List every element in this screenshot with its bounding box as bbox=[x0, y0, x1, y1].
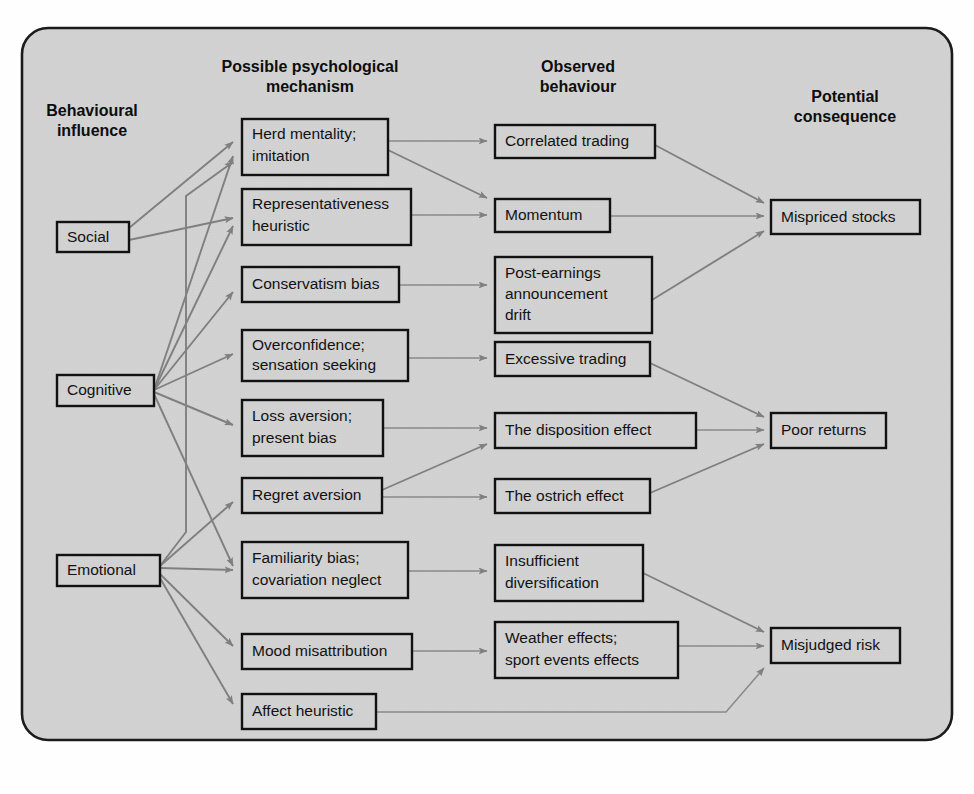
node-momentum-line1: Momentum bbox=[505, 206, 583, 223]
node-ostrich-line1: The ostrich effect bbox=[505, 487, 624, 504]
node-insufficient-diversification[interactable]: Insufficient diversification bbox=[495, 545, 643, 601]
node-regret-aversion-line1: Regret aversion bbox=[252, 486, 361, 503]
column-header-line2: influence bbox=[57, 122, 127, 139]
node-insufficient-line1: Insufficient bbox=[505, 552, 580, 569]
node-herd-mentality-line1: Herd mentality; bbox=[252, 125, 356, 142]
node-misjudged-risk[interactable]: Misjudged risk bbox=[771, 628, 900, 663]
node-regret-aversion[interactable]: Regret aversion bbox=[242, 478, 382, 513]
node-the-disposition-effect[interactable]: The disposition effect bbox=[495, 413, 696, 448]
node-insufficient-line2: diversification bbox=[505, 574, 599, 591]
node-social[interactable]: Social bbox=[57, 222, 129, 252]
column-header-line1: Behavioural bbox=[46, 102, 138, 119]
node-social-label: Social bbox=[67, 228, 109, 245]
node-representativeness-heuristic[interactable]: Representativeness heuristic bbox=[242, 189, 411, 245]
node-post-earnings-announcement-drift[interactable]: Post-earnings announcement drift bbox=[495, 257, 652, 333]
node-poor-returns[interactable]: Poor returns bbox=[771, 413, 886, 448]
node-emotional-label: Emotional bbox=[67, 561, 136, 578]
node-cognitive-label: Cognitive bbox=[67, 381, 132, 398]
node-mood-line1: Mood misattribution bbox=[252, 642, 387, 659]
node-affect-heuristic[interactable]: Affect heuristic bbox=[242, 694, 376, 729]
node-excessive-line1: Excessive trading bbox=[505, 350, 626, 367]
node-herd-mentality[interactable]: Herd mentality; imitation bbox=[242, 119, 388, 175]
column-header-line1: Possible psychological bbox=[222, 58, 399, 75]
column-header-line2: mechanism bbox=[266, 78, 354, 95]
node-loss-aversion-line2: present bias bbox=[252, 429, 337, 446]
node-overconfidence-line2: sensation seeking bbox=[252, 356, 376, 373]
node-mispriced-label: Mispriced stocks bbox=[781, 208, 896, 225]
node-representativeness-line1: Representativeness bbox=[252, 195, 389, 212]
node-loss-aversion[interactable]: Loss aversion; present bias bbox=[242, 400, 383, 456]
node-disposition-line1: The disposition effect bbox=[505, 421, 652, 438]
node-loss-aversion-line1: Loss aversion; bbox=[252, 407, 352, 424]
node-weather-line1: Weather effects; bbox=[505, 629, 617, 646]
node-cognitive[interactable]: Cognitive bbox=[57, 375, 154, 406]
node-familiarity-line1: Familiarity bias; bbox=[252, 549, 360, 566]
behavioural-finance-flow-diagram: Behavioural influence Possible psycholog… bbox=[0, 0, 974, 794]
node-pead-line1: Post-earnings bbox=[505, 264, 601, 281]
node-overconfidence-line1: Overconfidence; bbox=[252, 336, 365, 353]
column-header-line2: consequence bbox=[794, 108, 896, 125]
node-correlated-trading[interactable]: Correlated trading bbox=[495, 125, 655, 158]
node-conservatism-bias[interactable]: Conservatism bias bbox=[242, 267, 399, 302]
node-affect-line1: Affect heuristic bbox=[252, 702, 354, 719]
node-herd-mentality-line2: imitation bbox=[252, 147, 310, 164]
node-familiarity-line2: covariation neglect bbox=[252, 571, 382, 588]
node-weather-line2: sport events effects bbox=[505, 651, 639, 668]
column-header-line1: Observed bbox=[541, 58, 615, 75]
column-header-line2: behaviour bbox=[540, 78, 616, 95]
node-momentum[interactable]: Momentum bbox=[495, 199, 610, 232]
node-overconfidence[interactable]: Overconfidence; sensation seeking bbox=[242, 330, 408, 381]
node-the-ostrich-effect[interactable]: The ostrich effect bbox=[495, 479, 650, 513]
node-mood-misattribution[interactable]: Mood misattribution bbox=[242, 634, 412, 669]
column-header-line1: Potential bbox=[811, 88, 879, 105]
node-representativeness-line2: heuristic bbox=[252, 217, 310, 234]
figure-canvas: Behavioural influence Possible psycholog… bbox=[0, 0, 974, 794]
node-poor-returns-label: Poor returns bbox=[781, 421, 867, 438]
node-conservatism-line1: Conservatism bias bbox=[252, 275, 380, 292]
node-weather-sport-effects[interactable]: Weather effects; sport events effects bbox=[495, 622, 678, 678]
node-misjudged-label: Misjudged risk bbox=[781, 636, 880, 653]
node-mispriced-stocks[interactable]: Mispriced stocks bbox=[771, 200, 920, 234]
node-correlated-line1: Correlated trading bbox=[505, 132, 629, 149]
node-excessive-trading[interactable]: Excessive trading bbox=[495, 342, 650, 376]
node-emotional[interactable]: Emotional bbox=[57, 555, 160, 586]
node-familiarity-bias[interactable]: Familiarity bias; covariation neglect bbox=[242, 542, 408, 598]
node-pead-line2: announcement bbox=[505, 285, 608, 302]
node-pead-line3: drift bbox=[505, 306, 532, 323]
